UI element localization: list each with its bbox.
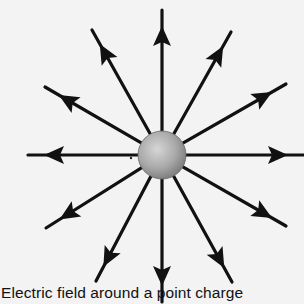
- point-charge-sphere: [138, 131, 186, 179]
- field-lines-graphic: [0, 0, 304, 304]
- electric-field-diagram: Electric field around a point charge: [0, 0, 304, 304]
- stray-dot: [130, 157, 132, 159]
- diagram-caption: Electric field around a point charge: [1, 283, 243, 303]
- arrowhead-icon: [60, 201, 82, 219]
